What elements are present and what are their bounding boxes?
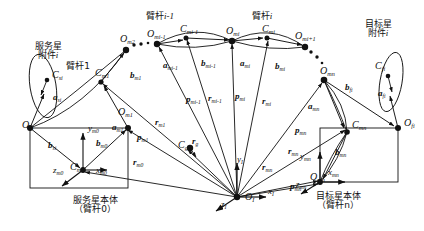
link-i-minus-1-caption: 臂杆i-1 bbox=[146, 12, 174, 21]
node-O-I bbox=[234, 194, 240, 200]
service-base-caption: 服务星本体（臂杆0） bbox=[73, 196, 118, 214]
z-i-axis-label: zI bbox=[221, 200, 226, 209]
y-mn-axis-label: ymn bbox=[300, 152, 311, 161]
service-attachment-caption: 服务星附件i bbox=[35, 42, 62, 60]
node-O-m2 bbox=[123, 47, 129, 53]
o-m1-point-label: Om1 bbox=[118, 107, 133, 117]
y-i-axis-label: yI bbox=[237, 155, 243, 164]
c-mn-point-label: Cmn bbox=[352, 120, 366, 130]
r-mn-vector-label: rmn bbox=[288, 147, 298, 156]
node-C-m1 bbox=[98, 79, 103, 84]
r-mi-vector-label: rmi bbox=[262, 97, 271, 106]
node-C-si bbox=[45, 78, 50, 83]
figure-canvas: OsiCsiOm1Cm1Om2Cm0Omi-1Cmi-1OmiCmiOmi+1O… bbox=[0, 0, 424, 231]
c-mi-point-label: Cmi bbox=[262, 24, 275, 34]
node-O-mi+1 bbox=[302, 44, 308, 50]
service-base-box bbox=[30, 128, 128, 188]
b-m1-vector-label: bm1 bbox=[130, 71, 141, 80]
b-fi-vector-label: bfi bbox=[345, 83, 353, 92]
vector-p-mi bbox=[232, 44, 237, 197]
o-mc-point-label: Omn bbox=[310, 172, 325, 182]
x-mn-axis-label: xmn bbox=[328, 168, 339, 177]
y-m0-axis-label: ym0 bbox=[88, 124, 99, 133]
target-base-caption: 目标星本体（臂杆n） bbox=[316, 192, 361, 210]
vector-b-mi-1 bbox=[186, 38, 229, 40]
o-fi-point-label: Ofi bbox=[404, 118, 415, 128]
link-i-caption: 臂杆i bbox=[252, 12, 273, 21]
node-C-fi bbox=[386, 74, 391, 79]
b-m0-vector-label: bm0 bbox=[96, 139, 107, 148]
c-m0-point-label: Cm0 bbox=[70, 162, 84, 172]
o-mi-point-label: Omi bbox=[226, 26, 239, 36]
link-i-edge-lower bbox=[232, 41, 305, 49]
service-attachment-ellipse bbox=[25, 52, 61, 119]
a-m1-vector-label: am1 bbox=[112, 123, 123, 132]
r-mi-1-vector-label: rmi-1 bbox=[208, 94, 222, 103]
r-m1-vector-label: rm1 bbox=[155, 118, 165, 127]
o-mi+1-point-label: Omi+1 bbox=[295, 31, 316, 41]
node-O-mi bbox=[229, 38, 236, 45]
b-mn-vector-label: bmn bbox=[335, 148, 346, 157]
vector-a-mn bbox=[324, 80, 344, 128]
r-g-vector-label: rg bbox=[192, 137, 198, 146]
axis-z-I bbox=[216, 197, 237, 211]
o-mi-1-point-label: Omi-1 bbox=[147, 29, 166, 39]
o-m2-point-label: Om2 bbox=[120, 34, 135, 44]
b-si-vector-label: bsi bbox=[48, 141, 56, 150]
a-mi-1-vector-label: ami-1 bbox=[163, 61, 178, 70]
node-C-mi bbox=[265, 36, 270, 41]
node-O-m1 bbox=[125, 125, 131, 131]
p-mi-1-vector-label: pmi-1 bbox=[186, 95, 201, 104]
a-fi-vector-label: afi bbox=[378, 89, 386, 98]
o-mn-point-label: Omn bbox=[320, 66, 335, 76]
r-mc-vector-label: rmn bbox=[262, 163, 272, 172]
a-mn-vector-label: amn bbox=[308, 102, 319, 111]
link1-caption: 臂杆1 bbox=[66, 62, 90, 71]
c-m1-point-label: Cm1 bbox=[95, 68, 109, 78]
node-O-mn bbox=[321, 77, 328, 84]
x-m0-axis-label: xm0 bbox=[96, 166, 107, 175]
r-m0-vector-label: rm0 bbox=[133, 158, 143, 167]
target-attachment-caption: 目标星附件i bbox=[365, 20, 392, 38]
node-C-mi-1 bbox=[184, 36, 189, 41]
p-mi-vector-label: pmi bbox=[235, 92, 245, 101]
vector-inside-target-attachment bbox=[388, 76, 392, 92]
vector-b-m0 bbox=[83, 130, 126, 170]
c-mi-1-point-label: Cmi-1 bbox=[180, 24, 198, 34]
a-si-vector-label: asi bbox=[53, 93, 61, 102]
c-si-point-label: Csi bbox=[52, 70, 63, 80]
c-g-point-label: Cg bbox=[178, 140, 188, 150]
c-fi-point-label: Cfi bbox=[375, 61, 385, 71]
b-mi-1-vector-label: bmi-1 bbox=[201, 59, 216, 68]
p-m1-vector-label: pm1 bbox=[137, 133, 148, 142]
o-si-point-label: Osi bbox=[22, 120, 33, 130]
vector-inside-service-attachment bbox=[41, 80, 47, 95]
p-mn-vector-label: pmn bbox=[295, 126, 306, 135]
node-O-fi bbox=[395, 125, 401, 131]
z-m0-axis-label: zm0 bbox=[53, 166, 63, 175]
x-i-axis-label: xI bbox=[268, 187, 274, 196]
b-mi-vector-label: bmi bbox=[275, 62, 285, 71]
a-mi-vector-label: ami bbox=[240, 59, 250, 68]
z-mn-axis-label: zmn bbox=[296, 180, 306, 189]
node-O-mi-1 bbox=[154, 41, 160, 47]
node-C-mn bbox=[344, 129, 350, 135]
o-i-point-label: OI bbox=[245, 192, 254, 202]
